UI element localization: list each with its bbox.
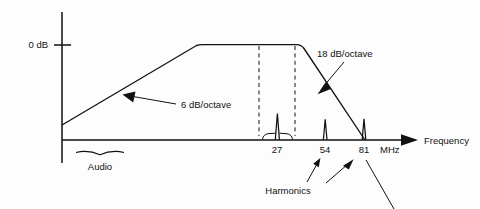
harmonic-spike-81 (362, 119, 366, 140)
x-axis-arrowhead (401, 134, 418, 146)
sideband-hump-left (263, 133, 276, 139)
x-tick-label-27: 27 (272, 144, 283, 155)
harmonics-arrowhead-54 (313, 158, 320, 167)
audio-brace (76, 151, 124, 154)
y-tick-label-0db: 0 dB (28, 39, 48, 50)
harmonic-spike-54 (323, 119, 327, 140)
low-slope-label: 6 dB/octave (181, 99, 231, 110)
x-axis-unit-label: MHz (380, 144, 400, 155)
harmonics-leader-line-54 (307, 164, 317, 182)
unlabelled-leader-line (366, 160, 394, 209)
x-axis-label: Frequency (424, 135, 469, 146)
low-slope-leader-line (133, 97, 176, 105)
x-tick-label-81: 81 (359, 144, 370, 155)
harmonics-arrowhead-81 (343, 159, 354, 169)
carrier-spike-27 (275, 114, 279, 140)
high-slope-label: 18 dB/octave (317, 48, 372, 59)
low-slope-arrowhead (123, 92, 136, 103)
frequency-response-diagram: 27 54 81 MHz 0 dB Frequency 6 dB/octave … (0, 0, 480, 209)
audio-label: Audio (88, 161, 112, 172)
harmonics-label: Harmonics (265, 185, 311, 196)
sideband-hump-right (280, 133, 293, 139)
high-slope-arrowhead (318, 81, 331, 94)
x-tick-label-54: 54 (320, 144, 331, 155)
